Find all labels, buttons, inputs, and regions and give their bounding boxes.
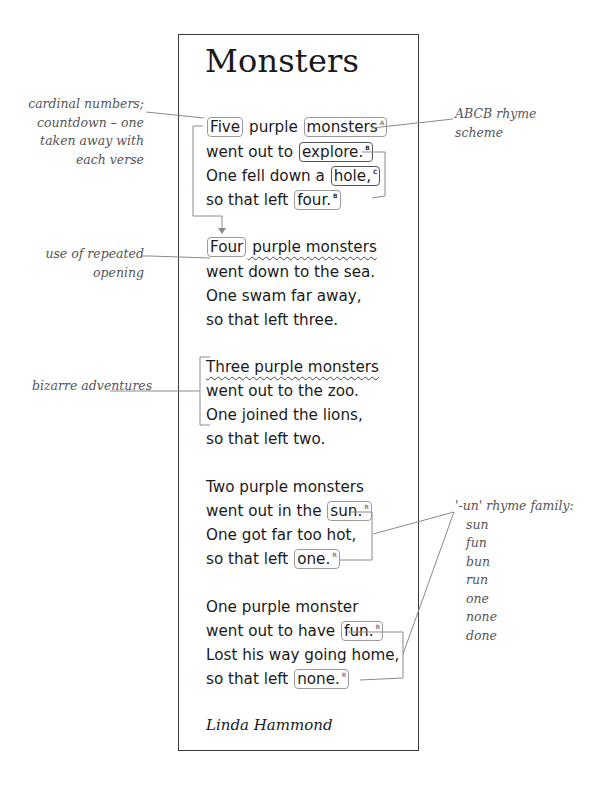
connector-un-family-1	[373, 512, 454, 534]
connector-rhyme-scheme	[372, 119, 453, 128]
bracket-sun-one	[340, 512, 372, 560]
bracket-bizarre	[200, 357, 210, 425]
annotated-poem-page: Monsters Five purple monstersA went out …	[0, 0, 607, 789]
annotation-connectors	[0, 0, 607, 789]
arrow-head-icon	[218, 228, 226, 234]
bracket-fun-none	[348, 632, 403, 680]
connector-un-family-2	[403, 512, 454, 654]
bracket-countdown	[193, 126, 222, 216]
connector-repeated-opening	[142, 256, 210, 258]
bracket-rhyme-b	[362, 152, 385, 198]
connector-cardinal	[146, 112, 204, 118]
